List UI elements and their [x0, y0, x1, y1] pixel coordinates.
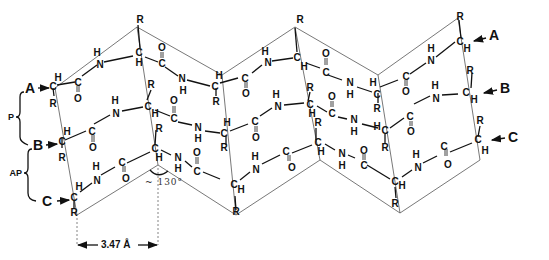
strand-b-bonds	[65, 94, 458, 140]
svg-text:C: C	[474, 134, 481, 145]
svg-text:N: N	[178, 73, 185, 84]
svg-text:H: H	[151, 108, 158, 119]
brace-antiparallel	[24, 149, 36, 201]
svg-text:C: C	[251, 116, 258, 127]
svg-text:C: C	[381, 125, 388, 136]
svg-text:C: C	[282, 146, 289, 157]
svg-text:O: O	[74, 93, 82, 104]
svg-text:H: H	[155, 152, 162, 163]
svg-text:N: N	[350, 114, 357, 125]
svg-text:R: R	[381, 142, 389, 153]
strand-c-left-label: C	[42, 193, 52, 209]
strand-a-right-label: A	[489, 27, 499, 43]
svg-text:H: H	[470, 94, 477, 105]
svg-text:H: H	[346, 89, 353, 100]
svg-text:R: R	[212, 96, 220, 107]
svg-text:H: H	[251, 151, 258, 162]
svg-text:N: N	[93, 175, 100, 186]
svg-text:H: H	[111, 95, 118, 106]
svg-text:H: H	[369, 77, 376, 88]
svg-text:C: C	[360, 160, 367, 171]
svg-text:O: O	[288, 162, 296, 173]
svg-text:R: R	[49, 98, 57, 109]
svg-text:C: C	[193, 166, 200, 177]
svg-text:N: N	[96, 59, 103, 70]
distance-label: 3.47 Å	[101, 238, 130, 250]
svg-text:O: O	[360, 145, 368, 156]
svg-text:C: C	[58, 136, 65, 147]
svg-text:H: H	[135, 57, 142, 68]
brace-parallel	[16, 92, 28, 145]
svg-text:O: O	[158, 42, 166, 53]
svg-text:O: O	[242, 88, 250, 99]
svg-text:R: R	[314, 117, 322, 128]
strand-b-left-label: B	[33, 137, 43, 153]
angle-label: ~ 130°	[145, 177, 183, 187]
svg-text:N: N	[338, 148, 345, 159]
svg-text:C: C	[462, 87, 469, 98]
svg-text:N: N	[427, 55, 434, 66]
svg-text:N: N	[112, 108, 119, 119]
svg-text:R: R	[373, 103, 381, 114]
svg-text:C: C	[170, 113, 177, 124]
svg-text:R: R	[466, 65, 474, 76]
svg-text:N: N	[264, 57, 271, 68]
strand-c-atoms: CHR NH CO CHR NH CO CHR NH CO CHR NH CO …	[70, 115, 488, 218]
carbonyl-double-bonds	[77, 52, 447, 172]
strand-b-right-label: B	[500, 80, 510, 96]
svg-text:H: H	[463, 43, 470, 54]
svg-text:H: H	[223, 117, 230, 128]
svg-text:H: H	[317, 146, 324, 157]
svg-text:H: H	[412, 149, 419, 160]
svg-text:H: H	[194, 133, 201, 144]
svg-text:H: H	[427, 43, 434, 54]
angle-annotation	[150, 170, 168, 175]
svg-text:N: N	[194, 122, 201, 133]
svg-text:O: O	[444, 159, 452, 170]
svg-text:R: R	[70, 207, 78, 218]
svg-text:R: R	[232, 206, 240, 217]
svg-text:R: R	[155, 123, 163, 134]
svg-text:O: O	[322, 48, 330, 59]
svg-text:R: R	[220, 142, 228, 153]
svg-text:C: C	[70, 192, 77, 203]
strand-a-left-label: A	[25, 80, 35, 96]
svg-text:C: C	[118, 157, 125, 168]
svg-text:C: C	[74, 77, 81, 88]
svg-text:H: H	[54, 72, 61, 83]
svg-text:O: O	[407, 126, 415, 137]
strand-a-bonds	[57, 42, 455, 92]
svg-text:C: C	[158, 58, 165, 69]
svg-text:C: C	[440, 141, 447, 152]
svg-text:R: R	[476, 115, 484, 126]
svg-text:R: R	[391, 198, 399, 209]
svg-text:C: C	[211, 81, 218, 92]
svg-text:C: C	[328, 108, 335, 119]
svg-text:C: C	[406, 111, 413, 122]
strand-c-right-label: C	[508, 129, 518, 145]
pleated-sheet-diagram: CHR CO NH CHR CO NH CHR CO NH CR H CO NH…	[0, 0, 549, 260]
svg-text:H: H	[174, 163, 181, 174]
svg-text:R: R	[136, 14, 144, 25]
svg-text:N: N	[174, 152, 181, 163]
svg-text:H: H	[215, 70, 222, 81]
svg-text:H: H	[398, 180, 405, 191]
svg-text:H: H	[237, 184, 244, 195]
svg-text:H: H	[481, 145, 488, 156]
svg-text:N: N	[346, 77, 353, 88]
svg-text:C: C	[220, 128, 227, 139]
brace-ap-label: AP	[9, 168, 22, 178]
svg-text:O: O	[328, 91, 336, 102]
svg-text:N: N	[252, 164, 259, 175]
svg-text:C: C	[373, 89, 380, 100]
svg-text:R: R	[58, 152, 66, 163]
svg-text:R: R	[147, 79, 155, 90]
svg-text:O: O	[402, 86, 410, 97]
svg-text:C: C	[241, 73, 248, 84]
svg-text:N: N	[274, 101, 281, 112]
svg-text:R: R	[456, 11, 464, 22]
svg-text:H: H	[63, 126, 70, 137]
svg-text:C: C	[88, 126, 95, 137]
svg-text:O: O	[252, 132, 260, 143]
svg-text:H: H	[93, 47, 100, 58]
